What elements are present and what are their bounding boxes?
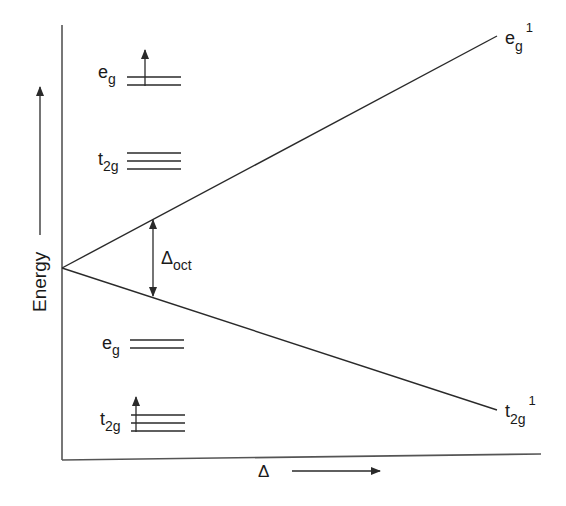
upper-eg-levels: eg bbox=[98, 50, 181, 87]
delta-oct-label: Δoct bbox=[161, 248, 192, 273]
svg-text:eg: eg bbox=[98, 62, 116, 87]
eg-energy-line bbox=[62, 36, 497, 268]
energy-level-diagram: Energy Δ eg1 t2g1 Δoct eg t2g eg t2g bbox=[0, 0, 566, 506]
svg-text:t2g: t2g bbox=[98, 149, 119, 174]
x-axis-label: Δ bbox=[258, 462, 269, 481]
y-axis-label: Energy bbox=[29, 251, 50, 312]
upper-t2g-levels: t2g bbox=[98, 149, 181, 174]
x-axis bbox=[62, 454, 541, 460]
lower-eg-levels: eg bbox=[102, 333, 184, 358]
eg1-label: eg1 bbox=[505, 20, 533, 54]
svg-text:eg: eg bbox=[102, 333, 120, 358]
svg-text:t2g: t2g bbox=[100, 409, 121, 434]
t2g-energy-line bbox=[62, 268, 497, 410]
lower-t2g-levels: t2g bbox=[100, 397, 185, 434]
t2g1-label: t2g1 bbox=[505, 393, 536, 427]
